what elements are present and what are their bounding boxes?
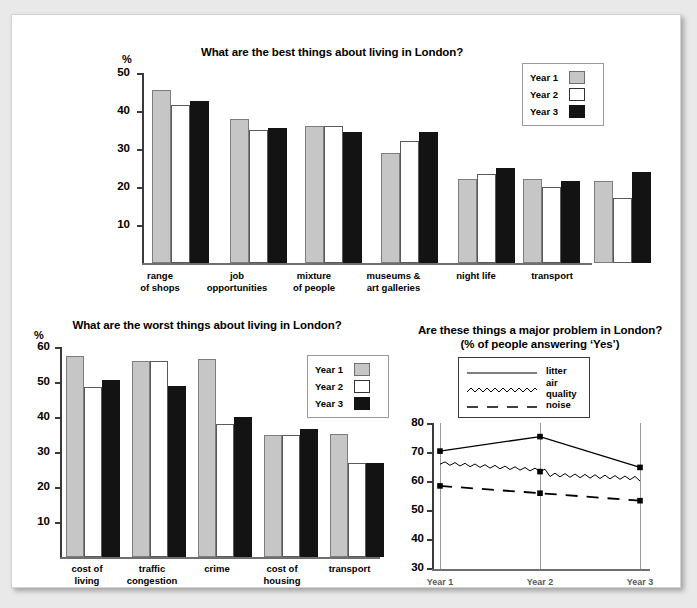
bar-cost-of-housing-year1 (264, 435, 282, 557)
legend-best-things: Year 1 Year 2 Year 3 (522, 63, 604, 126)
y-tick-30 (137, 149, 142, 151)
y-tick-60 (55, 347, 60, 349)
chart-best-things-title: What are the best things about living in… (132, 45, 532, 59)
chart-worst-things: What are the worst things about living i… (12, 305, 392, 587)
y-tick-50 (137, 73, 142, 75)
legend-row-year2: Year 2 (530, 86, 596, 103)
chart-page: What are the best things about living in… (11, 14, 681, 588)
marker-litter-year1 (437, 448, 443, 454)
bar-transport-year3 (366, 463, 384, 557)
line-litter (440, 437, 640, 468)
bar-transport-year2 (542, 187, 561, 263)
y-axis (60, 347, 62, 557)
bar-job-opportunities-year2 (249, 130, 268, 263)
chart-major-problem-subtitle: (% of people answering ‘Yes’) (400, 337, 680, 351)
y-tick-label-50: 50 (394, 503, 424, 515)
bar-museums-art-galleries-year2 (400, 141, 419, 263)
chart-best-things-y-unit: % (122, 53, 132, 65)
y-tick-50 (55, 382, 60, 384)
line-style-solid-icon (465, 365, 539, 377)
bar-mixture-of-people-year1 (305, 126, 324, 263)
legend-label-year3: Year 3 (530, 106, 563, 117)
legend-row-air-quality: air quality (465, 379, 583, 396)
bar-mixture-of-people-year3 (343, 132, 362, 263)
x-axis (142, 263, 592, 265)
legend-label-year2: Year 2 (530, 89, 563, 100)
legend-row-year2: Year 2 (315, 378, 381, 395)
x-axis (432, 569, 650, 571)
bar-transport-year2 (348, 463, 366, 557)
line-style-zigzag-icon (465, 382, 539, 394)
bar-night-life-year1 (458, 179, 477, 263)
y-tick-label-80: 80 (394, 416, 424, 428)
bar-job-opportunities-year1 (230, 119, 249, 263)
y-tick-label-10: 10 (100, 218, 130, 230)
legend-row-year1: Year 1 (530, 69, 596, 86)
y-tick-label-30: 30 (100, 142, 130, 154)
category-label-crime: crime (182, 563, 252, 575)
category-label-mixture-of-people: mixture of people (274, 270, 354, 293)
x-label-year3: Year 3 (612, 577, 668, 587)
bar-job-opportunities-year3 (268, 128, 287, 263)
bar-cost-of-living-year3 (102, 380, 120, 557)
y-tick-label-40: 40 (394, 532, 424, 544)
legend-row-year3: Year 3 (530, 103, 596, 120)
marker-litter-year3 (637, 465, 643, 471)
bar-cost-of-living-year1 (66, 356, 84, 557)
legend-label-litter: litter (546, 365, 567, 376)
bar-museums-art-galleries-year3 (419, 132, 438, 263)
y-tick-label-70: 70 (394, 445, 424, 457)
line-style-dashed-icon (465, 399, 539, 411)
bar-traffic-congestion-year2 (150, 361, 168, 557)
chart-worst-things-title: What are the worst things about living i… (32, 318, 382, 332)
category-label-cost-of-housing: cost of housing (247, 563, 317, 586)
chart-best-things: What are the best things about living in… (12, 15, 680, 295)
chart-major-problem: Are these things a major problem in Lond… (392, 305, 680, 587)
marker-air-quality-year2 (537, 469, 543, 475)
legend-label-air-quality: air quality (546, 377, 583, 399)
legend-major-problem: litter air quality noise (458, 357, 590, 418)
legend-row-year1: Year 1 (315, 361, 381, 378)
bar-crime-year1 (198, 359, 216, 557)
marker-noise-year2 (537, 490, 543, 496)
bar-extra-year1 (594, 181, 613, 263)
bar-transport-year3 (561, 181, 580, 263)
legend-worst-things: Year 1 Year 2 Year 3 (307, 355, 389, 418)
category-label-range-of-shops: range of shops (120, 270, 200, 293)
y-tick-label-40: 40 (100, 104, 130, 116)
legend-swatch-year3 (354, 397, 370, 410)
y-tick-20 (137, 187, 142, 189)
y-tick-label-30: 30 (20, 445, 50, 457)
y-tick-label-20: 20 (100, 180, 130, 192)
y-tick-label-60: 60 (20, 340, 50, 352)
y-tick-10 (55, 522, 60, 524)
y-tick-20 (55, 487, 60, 489)
bar-night-life-year3 (496, 168, 515, 263)
y-tick-label-60: 60 (394, 474, 424, 486)
bar-crime-year2 (216, 424, 234, 557)
bar-range-of-shops-year1 (152, 90, 171, 263)
legend-label-year1: Year 1 (530, 72, 563, 83)
category-label-job-opportunities: job opportunities (197, 270, 277, 293)
bar-mixture-of-people-year2 (324, 126, 343, 263)
category-label-transport: transport (512, 270, 592, 282)
bar-night-life-year2 (477, 174, 496, 263)
bar-traffic-congestion-year3 (168, 386, 186, 557)
x-axis (60, 557, 380, 559)
line-series-svg (432, 423, 650, 569)
bar-range-of-shops-year3 (190, 101, 209, 263)
y-tick-label-50: 50 (100, 66, 130, 78)
y-tick-label-50: 50 (20, 375, 50, 387)
y-tick-label-40: 40 (20, 410, 50, 422)
chart-major-problem-plot: 80 70 60 50 40 30 (432, 423, 650, 569)
y-tick-40 (137, 111, 142, 113)
legend-swatch-year2 (569, 88, 585, 101)
legend-label-year1: Year 1 (315, 364, 348, 375)
category-label-museums-art-galleries: museums & art galleries (346, 270, 441, 293)
legend-swatch-year3 (569, 105, 585, 118)
legend-label-year3: Year 3 (315, 398, 348, 409)
bar-cost-of-housing-year3 (300, 429, 318, 557)
category-label-traffic-congestion: traffic congestion (112, 563, 192, 586)
y-axis (142, 73, 144, 263)
marker-litter-year2 (537, 434, 543, 440)
